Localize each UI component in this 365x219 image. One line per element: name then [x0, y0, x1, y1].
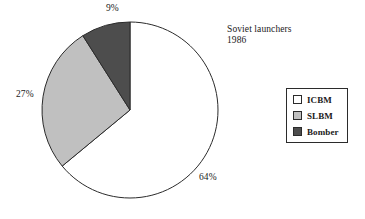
legend-item-slbm[interactable]: SLBM: [293, 108, 347, 124]
legend-swatch-icbm-icon: [293, 95, 302, 104]
legend-item-icbm[interactable]: ICBM: [293, 92, 347, 108]
legend-swatch-bomber-icon: [293, 127, 302, 136]
legend-label-bomber: Bomber: [307, 127, 339, 137]
pie-slice-group: [42, 22, 218, 198]
chart-title-line-1: Soviet launchers: [227, 24, 292, 35]
pie-label-slbm: 27%: [16, 89, 34, 99]
pie-label-bomber: 9%: [106, 3, 119, 13]
legend-label-icbm: ICBM: [307, 95, 332, 105]
legend-item-bomber[interactable]: Bomber: [293, 124, 347, 140]
chart-title-year: 1986: [227, 35, 292, 46]
chart-screen: 9% 27% 64% Soviet launchers 1986 ICBMSLB…: [0, 0, 365, 219]
pie-chart: [0, 0, 240, 219]
legend-label-slbm: SLBM: [307, 111, 333, 121]
chart-title: Soviet launchers 1986: [227, 24, 292, 46]
legend-swatch-slbm-icon: [293, 111, 302, 120]
chart-legend: ICBMSLBMBomber: [286, 88, 348, 143]
pie-label-icbm: 64%: [199, 172, 217, 182]
pie-chart-svg: [0, 0, 240, 219]
